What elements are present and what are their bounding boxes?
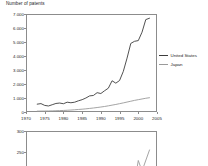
top-chart-y-tick-label: 6.000 — [13, 26, 24, 31]
top-chart-y-tick-mark — [24, 14, 26, 15]
bottom-chart-y-tick-label: 250 — [17, 150, 24, 155]
bottom-chart-y-tick-mark — [24, 152, 26, 153]
top-chart-y-tick-label: 4.000 — [13, 54, 24, 59]
top-chart-y-tick-label: 5.000 — [13, 40, 24, 45]
bottom-chart-lines — [26, 131, 157, 166]
top-chart-x-tick-mark — [82, 112, 83, 114]
top-chart-x-axis-labels: 19701975198019851990199520002005 — [26, 114, 157, 124]
top-chart-x-tick-label: 1990 — [96, 116, 106, 121]
top-chart-x-tick-label: 1980 — [59, 116, 69, 121]
top-chart-y-tick-mark — [24, 28, 26, 29]
bottom-chart-y-tick-label: 300 — [17, 129, 24, 134]
bottom-chart-plot-area — [26, 131, 157, 166]
top-chart-x-tick-mark — [101, 112, 102, 114]
top-chart-x-tick-mark — [157, 112, 158, 114]
top-chart-x-tick-label: 2000 — [133, 116, 143, 121]
top-chart-y-tick-mark — [24, 98, 26, 99]
figure-container: Number of patents 01.0002.0003.0004.0005… — [0, 0, 208, 166]
line-bottom-series-1 — [37, 150, 149, 166]
top-chart-y-tick-mark — [24, 42, 26, 43]
top-chart-x-tick-mark — [120, 112, 121, 114]
top-chart-x-tick-label: 1970 — [21, 116, 31, 121]
chart-axis-title: Number of patents — [6, 1, 45, 6]
top-chart-y-tick-label: 1.000 — [13, 96, 24, 101]
top-chart-plot-area — [26, 14, 157, 112]
top-chart-x-tick-label: 1975 — [40, 116, 50, 121]
top-chart-y-tick-label: 2.000 — [13, 82, 24, 87]
legend-label-united-states: United States — [171, 53, 197, 58]
bottom-chart-y-axis-labels: 250300 — [0, 131, 24, 166]
legend-item-japan: Japan — [159, 60, 208, 69]
legend-line-icon-japan — [159, 64, 168, 65]
chart-legend: United States Japan — [159, 51, 208, 69]
top-chart-x-tick-label: 1985 — [77, 116, 87, 121]
legend-line-icon-united-states — [159, 55, 168, 56]
top-chart-y-tick-label: 7.000 — [13, 12, 24, 17]
top-chart-x-tick-mark — [63, 112, 64, 114]
top-chart-y-tick-mark — [24, 56, 26, 57]
top-chart-x-tick-mark — [26, 112, 27, 114]
top-chart-x-tick-label: 2005 — [152, 116, 162, 121]
line-united-states — [37, 18, 149, 106]
top-chart-x-tick-mark — [138, 112, 139, 114]
top-chart-y-tick-label: 3.000 — [13, 68, 24, 73]
top-chart-y-tick-mark — [24, 70, 26, 71]
top-chart-x-tick-mark — [45, 112, 46, 114]
top-chart-y-axis-labels: 01.0002.0003.0004.0005.0006.0007.000 — [0, 14, 24, 112]
bottom-chart-y-tick-mark — [24, 131, 26, 132]
top-chart-y-tick-mark — [24, 84, 26, 85]
legend-label-japan: Japan — [171, 62, 183, 67]
legend-item-united-states: United States — [159, 51, 208, 60]
top-chart-x-tick-label: 1995 — [115, 116, 125, 121]
top-chart-lines — [26, 14, 157, 112]
